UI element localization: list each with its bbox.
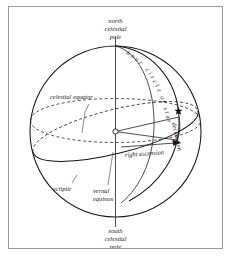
figure-page: north celestial pole south celestial pol… bbox=[0, 0, 233, 269]
celestial-sphere-diagram: north celestial pole south celestial pol… bbox=[9, 7, 222, 248]
south-pole-label-line1: south bbox=[108, 227, 123, 234]
north-pole-label-line2: celestial bbox=[105, 25, 127, 32]
celestial-equator-label: celestial equator bbox=[50, 93, 93, 100]
north-pole-label-line1: north bbox=[108, 17, 123, 24]
vernal-equinox-label-line2: equinox bbox=[93, 195, 113, 202]
right-ascension-label: right ascension bbox=[125, 148, 165, 158]
hour-circle-label-glyph-14: t bbox=[164, 110, 171, 114]
ecliptic-leader bbox=[72, 175, 77, 183]
celestial-equator-leader bbox=[82, 104, 89, 133]
caption-strip bbox=[12, 259, 162, 267]
declination-label: declination bbox=[171, 122, 184, 152]
south-pole-label-line3: pole bbox=[109, 243, 121, 248]
vernal-equinox-leader bbox=[108, 152, 113, 185]
hour-circle-label-glyph-4: r bbox=[138, 59, 145, 66]
radius-to-equator-foot bbox=[116, 132, 178, 141]
vernal-equinox-label-line1: vernal bbox=[93, 187, 110, 194]
sphere-center-dot bbox=[113, 129, 118, 134]
hour-circle-label: h o u r c i r c l e o f s t a r bbox=[125, 49, 173, 124]
hour-circle-label-glyph-12: f bbox=[161, 99, 169, 104]
south-pole-label-line2: celestial bbox=[105, 235, 127, 242]
north-pole-label-line3: pole bbox=[109, 33, 121, 40]
ecliptic-label: ecliptic bbox=[53, 185, 72, 192]
figure-frame: north celestial pole south celestial pol… bbox=[8, 6, 223, 249]
hour-circle-label-glyph-10: e bbox=[156, 87, 164, 93]
right-ascension-arrow-line bbox=[121, 143, 175, 147]
